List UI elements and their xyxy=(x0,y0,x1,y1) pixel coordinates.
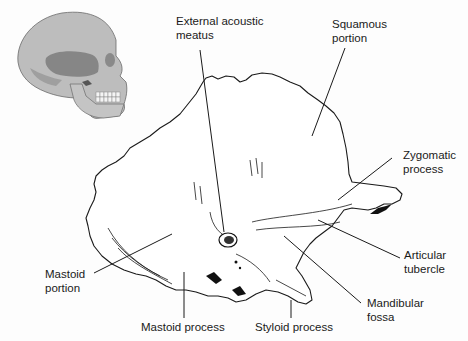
label-articular-tubercle: Articular tubercle xyxy=(404,248,446,276)
skull-inset xyxy=(18,12,127,118)
label-mastoid-process: Mastoid process xyxy=(141,320,225,334)
label-squamous-portion: Squamous portion xyxy=(332,17,387,45)
label-styloid-process: Styloid process xyxy=(255,320,333,334)
label-zygomatic-process: Zygomatic process xyxy=(403,148,456,176)
leader-articular-tubercle xyxy=(318,220,400,258)
meatus-opening xyxy=(219,233,237,247)
label-mandibular-fossa: Mandibular fossa xyxy=(367,296,424,324)
temporal-bone xyxy=(86,73,402,304)
label-mastoid-portion: Mastoid portion xyxy=(45,267,85,295)
label-external-acoustic-meatus: External acoustic meatus xyxy=(176,14,264,42)
